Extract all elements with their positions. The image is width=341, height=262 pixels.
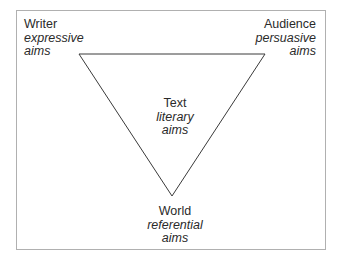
text-label: Text literary aims bbox=[135, 97, 215, 138]
writer-name: Writer bbox=[24, 18, 84, 32]
audience-label: Audience persuasive aims bbox=[256, 18, 316, 59]
writer-aim-suffix: aims bbox=[24, 45, 84, 59]
text-name: Text bbox=[135, 97, 215, 111]
world-aim: referential bbox=[130, 219, 220, 233]
world-label: World referential aims bbox=[130, 205, 220, 246]
audience-aim-suffix: aims bbox=[256, 45, 316, 59]
audience-aim: persuasive bbox=[256, 32, 316, 46]
world-name: World bbox=[130, 205, 220, 219]
text-aim: literary bbox=[135, 111, 215, 125]
writer-label: Writer expressive aims bbox=[24, 18, 84, 59]
audience-name: Audience bbox=[256, 18, 316, 32]
text-aim-suffix: aims bbox=[135, 124, 215, 138]
world-aim-suffix: aims bbox=[130, 232, 220, 246]
writer-aim: expressive bbox=[24, 32, 84, 46]
